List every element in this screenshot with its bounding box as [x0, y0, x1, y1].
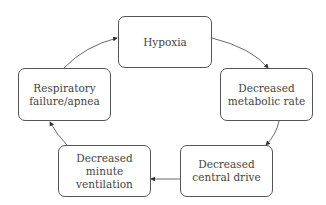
node-central-drive: Decreased central drive: [180, 145, 273, 197]
node-respiratory-failure: Respiratory failure/apnea: [18, 68, 111, 121]
node-label-line: Decreased: [238, 82, 294, 95]
node-label-line: Decreased: [76, 152, 132, 165]
node-label-line: Decreased: [198, 158, 254, 171]
node-metabolic-rate: Decreased metabolic rate: [220, 68, 313, 121]
node-label-line: Hypoxia: [143, 36, 187, 49]
node-label-line: failure/apnea: [29, 95, 100, 108]
edge-ventilation-to-respiratory: [50, 122, 67, 145]
node-label-line: central drive: [192, 171, 260, 184]
node-minute-ventilation: Decreased minute ventilation: [58, 145, 151, 197]
node-label-line: minute ventilation: [59, 165, 150, 191]
edge-metabolic-to-central: [266, 121, 279, 145]
edge-respiratory-to-hypoxia: [64, 38, 117, 68]
edge-hypoxia-to-metabolic: [212, 38, 268, 68]
node-hypoxia: Hypoxia: [118, 16, 212, 68]
node-label-line: Respiratory: [33, 82, 95, 95]
node-label-line: metabolic rate: [228, 95, 305, 108]
